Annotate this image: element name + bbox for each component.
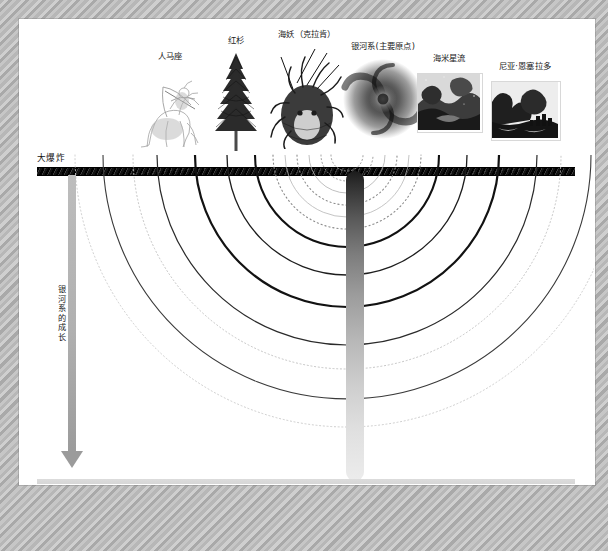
- diagram-canvas: 人马座: [19, 19, 594, 484]
- arc-arc-13: [75, 155, 594, 427]
- growth-axis-label: 银河系的成长: [55, 285, 67, 342]
- arrow-shaft-icon: [68, 175, 76, 455]
- figure-root: 人马座: [0, 0, 608, 551]
- arc-arc-1: [331, 155, 363, 171]
- arrow-head-icon: [61, 451, 83, 468]
- present-day-axis-bar: [37, 479, 575, 484]
- arc-family: [19, 19, 594, 484]
- growth-arrow: 银河系的成长: [59, 175, 85, 475]
- main-origin-column: [346, 171, 364, 481]
